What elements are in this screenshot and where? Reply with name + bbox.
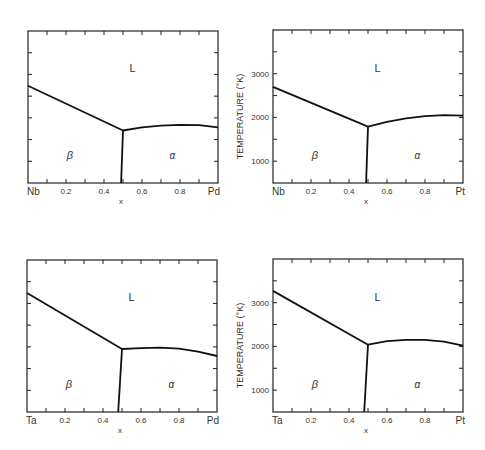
x-axis-label: x [119,197,123,206]
region-label-liquid: L [374,291,380,303]
phase-boundary-beta-alpha-boundary [364,345,368,412]
region-label-alpha: α [169,379,175,390]
plot-frame [27,260,217,412]
x-tick-label: 0.4 [97,416,109,425]
region-label-beta: β [65,378,73,390]
x-tick-label: 0.4 [98,187,110,196]
phase-boundary-liquidus-alpha [123,125,218,131]
x-tick-label: 0.4 [343,416,355,425]
x-left-element-label: Ta [26,415,37,426]
x-tick-label: 0.2 [305,187,317,196]
y-tick-label: 1000 [251,157,269,166]
phase-diagram-figure: 0.20.40.60.8NbPdxLβα0.20.40.60.8NbPtx100… [0,0,485,450]
y-tick-label: 1000 [251,386,269,395]
x-axis-label: x [118,426,122,435]
x-tick-label: 0.8 [174,187,186,196]
region-label-beta: β [311,149,319,161]
x-left-element-label: Ta [272,415,283,426]
x-tick-label: 0.6 [381,416,393,425]
phase-diagram-panel-2: 0.20.40.60.8NbPtx100020003000TEMPERATURE… [235,30,465,206]
phase-diagram-panel-3: 0.20.40.60.8TaPdxLβα [26,260,219,435]
y-axis-label: TEMPERATURE (°K) [235,303,245,388]
phase-boundary-liquidus-beta [273,87,368,127]
x-right-element-label: Pt [456,415,466,426]
x-left-element-label: Nb [272,186,285,197]
y-tick-label: 3000 [251,70,269,79]
x-right-element-label: Pd [207,415,219,426]
phase-boundary-beta-alpha-boundary [118,349,122,412]
phase-boundary-liquidus-alpha [368,115,463,126]
y-tick-label: 2000 [251,113,269,122]
phase-boundary-beta-alpha-boundary [121,131,123,184]
x-left-element-label: Nb [27,186,40,197]
x-tick-label: 0.6 [136,187,148,196]
x-tick-label: 0.8 [419,416,431,425]
y-tick-label: 3000 [251,299,269,308]
plot-frame [273,259,463,412]
phase-boundary-liquidus-beta [27,293,122,349]
phase-boundary-liquidus-beta [273,291,368,345]
x-right-element-label: Pt [456,186,466,197]
y-axis-label: TEMPERATURE (°K) [235,74,245,159]
region-label-alpha: α [415,150,421,161]
region-label-alpha: α [170,150,176,161]
y-tick-label: 2000 [251,342,269,351]
x-tick-label: 0.2 [60,187,72,196]
plot-frame [273,30,463,183]
region-label-liquid: L [129,62,135,74]
region-label-beta: β [311,378,319,390]
x-tick-label: 0.2 [59,416,71,425]
phase-diagram-panel-1: 0.20.40.60.8NbPdxLβα [27,31,220,206]
phase-boundary-beta-alpha-boundary [366,127,368,183]
region-label-alpha: α [415,379,421,390]
x-axis-label: x [364,426,368,435]
phase-boundary-liquidus-alpha [368,340,463,346]
x-tick-label: 0.8 [173,416,185,425]
phase-boundary-liquidus-beta [28,86,123,131]
x-tick-label: 0.2 [305,416,317,425]
x-tick-label: 0.6 [135,416,147,425]
plot-frame [28,31,218,183]
region-label-beta: β [66,149,74,161]
region-label-liquid: L [128,291,134,303]
x-tick-label: 0.6 [381,187,393,196]
x-tick-label: 0.4 [343,187,355,196]
x-tick-label: 0.8 [419,187,431,196]
phase-boundary-liquidus-alpha [122,348,217,356]
x-right-element-label: Pd [208,186,220,197]
phase-diagram-panel-4: 0.20.40.60.8TaPtx100020003000TEMPERATURE… [235,259,465,435]
x-axis-label: x [364,197,368,206]
region-label-liquid: L [374,62,380,74]
